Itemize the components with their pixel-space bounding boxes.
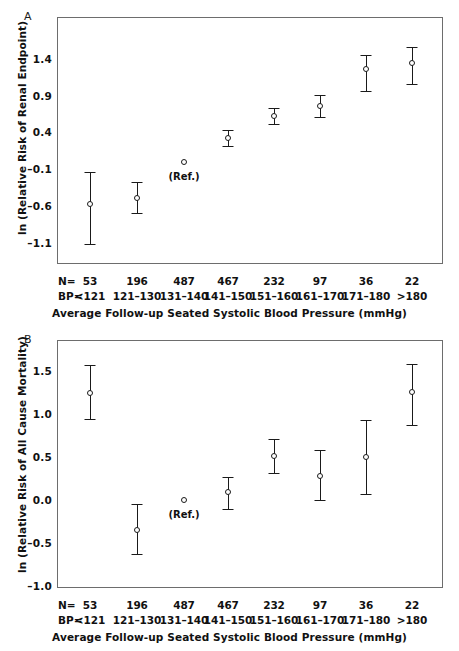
data-point-marker — [271, 453, 277, 459]
data-point-marker — [225, 135, 231, 141]
figure-container: A ln (Relative Risk of Renal Endpoint) 1… — [0, 0, 459, 651]
error-bar-cap-upper — [223, 477, 234, 478]
bp-range-cell: 131–140 — [160, 614, 208, 626]
bp-range-cell: >180 — [397, 290, 427, 302]
n-count-cell: 97 — [313, 275, 327, 287]
error-bar-whisker — [412, 364, 413, 425]
n-count-cell: 487 — [173, 599, 195, 611]
panel-a-row-header-n: N= — [58, 275, 76, 287]
reference-annotation: (Ref.) — [168, 171, 199, 182]
reference-point-marker — [181, 497, 187, 503]
error-bar-cap-upper — [361, 420, 372, 421]
error-bar-cap-upper — [132, 182, 143, 183]
n-count-cell: 232 — [263, 599, 285, 611]
bp-range-cell: >180 — [397, 614, 427, 626]
error-bar-cap-lower — [315, 117, 326, 118]
error-bar-whisker — [366, 55, 367, 92]
error-bar-cap-lower — [223, 146, 234, 147]
bp-range-cell: 161–170 — [296, 290, 344, 302]
n-count-cell: 97 — [313, 599, 327, 611]
data-point-marker — [87, 390, 93, 396]
bp-range-cell: 121–130 — [113, 290, 161, 302]
reference-annotation: (Ref.) — [168, 509, 199, 520]
data-point-marker — [363, 66, 369, 72]
error-bar-cap-lower — [132, 213, 143, 214]
error-bar-cap-upper — [407, 364, 418, 365]
error-bar-cap-lower — [269, 473, 280, 474]
n-count-cell: 36 — [359, 599, 373, 611]
bp-range-cell: 131–140 — [160, 290, 208, 302]
error-bar-cap-lower — [132, 554, 143, 555]
panel-b: B ln (Relative Risk of All Cause Mortali… — [0, 325, 459, 651]
n-count-cell: 22 — [405, 599, 419, 611]
error-bar-cap-lower — [315, 500, 326, 501]
error-bar-cap-lower — [269, 124, 280, 125]
error-bar-cap-upper — [132, 504, 143, 505]
data-point-marker — [317, 103, 323, 109]
error-bar-cap-lower — [361, 91, 372, 92]
error-bar-cap-lower — [223, 509, 234, 510]
n-count-cell: 487 — [173, 275, 195, 287]
data-point-marker — [409, 389, 415, 395]
bp-range-cell: 121–130 — [113, 614, 161, 626]
bp-range-cell: 161–170 — [296, 614, 344, 626]
n-count-cell: 53 — [83, 599, 97, 611]
bp-range-cell: 151–160 — [250, 614, 298, 626]
error-bar-whisker — [90, 172, 91, 244]
data-point-marker — [87, 201, 93, 207]
bp-range-cell: 141–150 — [204, 614, 252, 626]
panel-b-x-axis-label: Average Follow-up Seated Systolic Blood … — [0, 631, 459, 643]
bp-range-cell: <121 — [75, 290, 105, 302]
error-bar-cap-upper — [269, 439, 280, 440]
n-count-cell: 196 — [126, 275, 148, 287]
data-point-marker — [271, 113, 277, 119]
error-bar-cap-upper — [361, 55, 372, 56]
n-count-cell: 467 — [217, 275, 239, 287]
data-point-marker — [317, 473, 323, 479]
n-count-cell: 467 — [217, 599, 239, 611]
n-count-cell: 232 — [263, 275, 285, 287]
data-point-marker — [134, 195, 140, 201]
bp-range-cell: <121 — [75, 614, 105, 626]
n-count-cell: 36 — [359, 275, 373, 287]
error-bar-cap-upper — [315, 450, 326, 451]
error-bar-cap-upper — [407, 47, 418, 48]
error-bar-cap-upper — [223, 130, 234, 131]
error-bar-cap-upper — [315, 95, 326, 96]
error-bar-cap-lower — [407, 84, 418, 85]
panel-b-row-header-n: N= — [58, 599, 76, 611]
data-point-marker — [409, 60, 415, 66]
error-bar-cap-upper — [269, 108, 280, 109]
n-count-cell: 196 — [126, 599, 148, 611]
data-point-marker — [225, 489, 231, 495]
error-bar-cap-upper — [85, 172, 96, 173]
bp-range-cell: 151–160 — [250, 290, 298, 302]
data-point-marker — [134, 527, 140, 533]
data-point-marker — [363, 454, 369, 460]
bp-range-cell: 171–180 — [342, 614, 390, 626]
error-bar-cap-lower — [85, 419, 96, 420]
reference-point-marker — [181, 159, 187, 165]
bp-range-cell: 141–150 — [204, 290, 252, 302]
panel-a-x-axis-label: Average Follow-up Seated Systolic Blood … — [0, 307, 459, 319]
error-bar-cap-lower — [85, 244, 96, 245]
error-bar-cap-upper — [85, 365, 96, 366]
panel-a: A ln (Relative Risk of Renal Endpoint) 1… — [0, 0, 459, 325]
bp-range-cell: 171–180 — [342, 290, 390, 302]
error-bar-cap-lower — [361, 494, 372, 495]
error-bar-cap-lower — [407, 425, 418, 426]
n-count-cell: 53 — [83, 275, 97, 287]
n-count-cell: 22 — [405, 275, 419, 287]
